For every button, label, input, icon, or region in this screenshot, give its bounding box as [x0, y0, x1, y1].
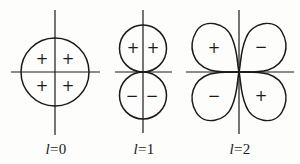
l2-sign-lower-right: +	[255, 87, 268, 105]
l0-sign-lower-left: +	[36, 77, 49, 95]
caption-l0: l=0	[45, 141, 66, 158]
l2-sign-lower-left: −	[208, 87, 221, 105]
l2-sign-upper-right: −	[255, 38, 268, 56]
l0-sign-upper-right: +	[62, 50, 75, 68]
l1-sign-lower-left: −	[126, 87, 139, 105]
l1-sign-lower-right: −	[146, 87, 159, 105]
l0-sign-upper-left: +	[36, 50, 49, 68]
caption-l2-eq: =2	[234, 141, 251, 157]
orbital-diagram: + + + + + + − − + − − +	[0, 0, 300, 164]
panel-l0: + + + +	[11, 10, 100, 135]
caption-l2: l=2	[229, 141, 250, 158]
panel-l2: + − − +	[186, 10, 294, 134]
caption-l1-eq: =1	[138, 141, 155, 157]
panel-l1: + + − −	[115, 10, 172, 133]
l2-sign-upper-left: +	[208, 39, 221, 57]
l0-sign-lower-right: +	[62, 77, 75, 95]
l1-sign-upper-right: +	[147, 39, 160, 57]
l1-sign-upper-left: +	[127, 39, 140, 57]
caption-l1: l=1	[133, 141, 154, 158]
caption-l0-eq: =0	[50, 141, 67, 157]
